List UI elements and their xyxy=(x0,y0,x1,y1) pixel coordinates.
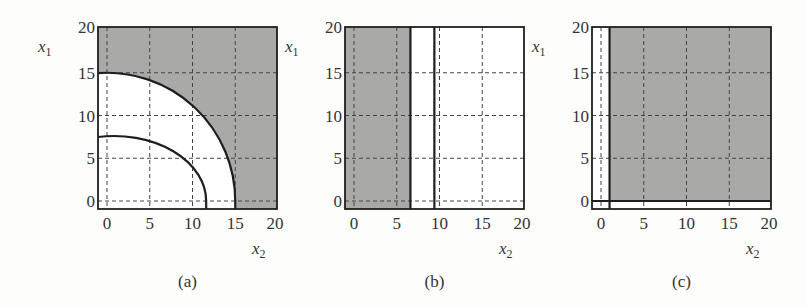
y-tick-label: 0 xyxy=(581,192,590,211)
x-tick-label: 0 xyxy=(350,214,359,233)
panel-caption: (c) xyxy=(672,272,691,291)
y-tick-label: 20 xyxy=(78,18,95,37)
y-tick-label: 10 xyxy=(325,107,342,126)
x-tick-label: 0 xyxy=(597,214,606,233)
panel-b: 0510152005101520x1x2(b) xyxy=(247,0,507,307)
y-tick-label: 10 xyxy=(572,107,589,126)
plot-c: 0510152005101520x1x2(c) xyxy=(494,0,794,307)
y-axis-label: x1 xyxy=(284,37,299,59)
x-tick-label: 5 xyxy=(393,214,402,233)
panel-a: 0510152005101520x1x2(a) xyxy=(0,0,260,307)
x-tick-label: 5 xyxy=(640,214,649,233)
panel-caption: (a) xyxy=(178,272,197,291)
y-tick-label: 5 xyxy=(581,149,590,168)
y-tick-label: 15 xyxy=(572,64,589,83)
y-tick-label: 5 xyxy=(87,149,96,168)
y-tick-label: 5 xyxy=(334,149,343,168)
y-axis-label: x1 xyxy=(531,37,546,59)
x-tick-label: 10 xyxy=(431,214,448,233)
y-tick-label: 20 xyxy=(325,18,342,37)
x-axis-label: x2 xyxy=(745,239,760,261)
x-tick-label: 0 xyxy=(103,214,112,233)
y-tick-label: 15 xyxy=(78,64,95,83)
shaded-region xyxy=(610,27,771,201)
y-tick-label: 10 xyxy=(78,107,95,126)
y-tick-label: 0 xyxy=(334,192,343,211)
y-tick-label: 15 xyxy=(325,64,342,83)
x-tick-label: 10 xyxy=(184,214,201,233)
y-axis-label: x1 xyxy=(37,37,52,59)
x-tick-label: 10 xyxy=(678,214,695,233)
y-tick-label: 20 xyxy=(572,18,589,37)
x-tick-label: 15 xyxy=(721,214,738,233)
x-tick-label: 15 xyxy=(227,214,244,233)
x-tick-label: 15 xyxy=(474,214,491,233)
plot-area xyxy=(592,27,771,209)
y-tick-label: 0 xyxy=(87,192,96,211)
panel-c: 0510152005101520x1x2(c) xyxy=(494,0,754,307)
shaded-region xyxy=(345,27,410,209)
panel-caption: (b) xyxy=(425,272,445,291)
x-tick-label: 5 xyxy=(146,214,155,233)
x-tick-label: 20 xyxy=(761,214,778,233)
